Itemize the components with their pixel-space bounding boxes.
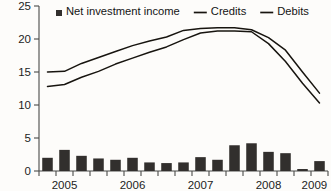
y-tick-label: 10 (18, 99, 31, 111)
x-tick-label: 2005 (52, 179, 78, 191)
investment-income-chart: 0510152025 20052006200720082009 Net inve… (0, 0, 331, 191)
bar (110, 160, 121, 171)
legend-label: Debits (277, 5, 309, 17)
bar (195, 157, 206, 171)
legend-label: Credits (211, 5, 247, 17)
bar (178, 162, 189, 171)
x-tick-label: 2007 (188, 179, 214, 191)
bar (297, 169, 308, 171)
x-tick-label: 2009 (302, 179, 328, 191)
bar (59, 150, 70, 171)
y-tick-label: 0 (25, 165, 31, 177)
y-tick-label: 15 (18, 66, 31, 78)
x-tick-label: 2006 (120, 179, 146, 191)
bar (212, 160, 223, 171)
bar (161, 163, 172, 171)
bar (42, 158, 53, 171)
legend-marker-square (56, 10, 62, 16)
x-tick-label: 2008 (256, 179, 282, 191)
legend-label: Net investment income (66, 5, 180, 17)
bar (263, 152, 274, 171)
bar (93, 158, 104, 171)
bar (280, 153, 291, 171)
y-tick-label: 5 (25, 132, 31, 144)
bar (246, 143, 257, 171)
bar (76, 156, 87, 171)
bar (127, 158, 138, 171)
bar (144, 162, 155, 171)
y-tick-label: 25 (18, 0, 31, 12)
y-tick-label: 20 (18, 33, 31, 45)
bar (229, 145, 240, 171)
bar (314, 161, 325, 171)
chart-canvas: 0510152025 20052006200720082009 Net inve… (0, 0, 331, 191)
